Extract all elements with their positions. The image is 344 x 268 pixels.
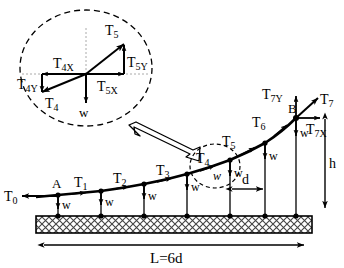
label-w-4: w [191,180,200,194]
detail-circle-group: T5 T5Y T5X T4 T4X T4Y w [17,10,152,126]
label-node-A: A [52,176,62,191]
support-dot-1 [55,213,60,218]
label-w-3: w [148,189,157,203]
dimension-L-label: L=6d [150,250,183,266]
label-w-6: w [269,149,278,163]
dimension-L: L=6d [44,245,304,266]
label-T2: T2 [113,171,127,188]
base-beam [36,216,312,233]
label-weight-smallcircle: w [213,169,221,183]
vector-T7 [296,98,318,118]
support-dot-6 [262,213,267,218]
diagram-svg: T5 T5Y T5X T4 T4X T4Y w [0,0,344,268]
figure-canvas: T5 T5Y T5X T4 T4X T4Y w [0,0,344,268]
label-w-1: w [62,198,71,212]
label-T4: T4 [196,151,210,168]
label-T7: T7 [320,92,334,109]
label-weight-detail: w [79,105,89,120]
support-dot-2 [98,213,103,218]
beam-body [36,216,312,233]
label-T0: T0 [4,189,18,206]
cable-arrow-6 [274,125,287,136]
node-B-group: B T7 T7Y T7X [262,87,334,139]
support-dot-3 [141,213,146,218]
label-T6: T6 [252,115,266,132]
support-dot-4 [184,213,189,218]
dimension-d-label: d [242,172,249,187]
label-T7Y: T7Y [262,87,283,104]
cable-arrow-5 [241,148,255,156]
callout-arrow-shape [129,122,200,161]
support-dot-5 [227,213,232,218]
weight-arrow-group: w w w w w w w [58,119,309,212]
hanger-group [55,118,298,219]
support-dot-7 [293,213,298,218]
label-T5-cable: T5 [222,134,236,151]
dimension-h-label: h [329,156,336,171]
label-T3: T3 [156,163,170,180]
label-w-2: w [105,195,114,209]
callout-arrow [129,122,200,161]
label-T1: T1 [74,175,88,192]
